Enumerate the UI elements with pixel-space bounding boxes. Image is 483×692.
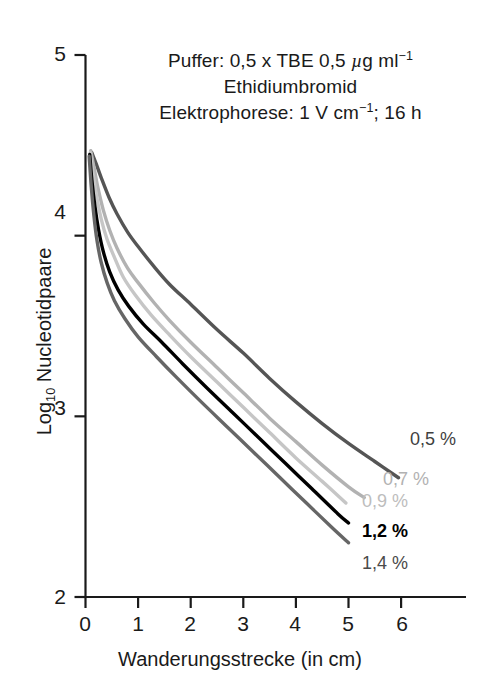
annotation-mu-symbol: µ bbox=[351, 50, 362, 71]
x-tick-label-4: 4 bbox=[282, 612, 308, 636]
x-axis-title: Wanderungsstrecke (in cm) bbox=[60, 648, 420, 671]
x-tick-label-5: 5 bbox=[335, 612, 361, 636]
annotation-line-1-text-b: g ml bbox=[362, 50, 398, 71]
annotation-line-3-text-a: Elektrophorese: 1 V cm bbox=[159, 102, 359, 123]
y-axis-title-subscript: 10 bbox=[43, 388, 58, 402]
x-tick-label-2: 2 bbox=[177, 612, 203, 636]
annotation-line-3-superscript: −1 bbox=[359, 101, 374, 115]
y-axis-title-base: Log bbox=[33, 402, 55, 435]
annotation-line-2: Ethidiumbromid bbox=[118, 74, 463, 100]
annotation-line-1: Puffer: 0,5 x TBE 0,5 µg ml−1 bbox=[118, 48, 463, 74]
data-curves bbox=[89, 151, 398, 543]
curve-label-12: 1,2 % bbox=[362, 521, 408, 542]
axis-lines bbox=[86, 55, 467, 597]
y-tick-label-5: 5 bbox=[40, 42, 66, 66]
annotation-line-3: Elektrophorese: 1 V cm−1; 16 h bbox=[118, 100, 463, 126]
x-axis-ticks bbox=[86, 597, 402, 608]
curve-label-07: 0,7 % bbox=[383, 469, 429, 490]
annotation-line-1-superscript: −1 bbox=[399, 49, 414, 63]
chart-figure: 5432 0123456 Log10 Nucleotidpaare Wander… bbox=[0, 0, 483, 692]
y-tick-label-2: 2 bbox=[40, 585, 66, 609]
y-axis-title: Log10 Nucleotidpaare bbox=[33, 212, 56, 472]
annotation-line-3-text-b: ; 16 h bbox=[374, 102, 422, 123]
annotation-line-1-text-a: Puffer: 0,5 x TBE 0,5 bbox=[168, 50, 351, 71]
curve-05 bbox=[92, 153, 399, 478]
x-tick-label-0: 0 bbox=[72, 612, 98, 636]
curve-label-09: 0,9 % bbox=[362, 491, 408, 512]
y-axis-title-rest: Nucleotidpaare bbox=[33, 248, 55, 388]
x-tick-label-3: 3 bbox=[230, 612, 256, 636]
x-tick-label-6: 6 bbox=[389, 612, 415, 636]
y-axis-ticks bbox=[75, 55, 86, 597]
curve-12 bbox=[90, 154, 349, 523]
chart-annotation-block: Puffer: 0,5 x TBE 0,5 µg ml−1 Ethidiumbr… bbox=[118, 48, 463, 126]
curve-label-14: 1,4 % bbox=[362, 553, 408, 574]
curve-07 bbox=[91, 151, 365, 498]
x-tick-label-1: 1 bbox=[125, 612, 151, 636]
curve-label-05: 0,5 % bbox=[410, 429, 456, 450]
